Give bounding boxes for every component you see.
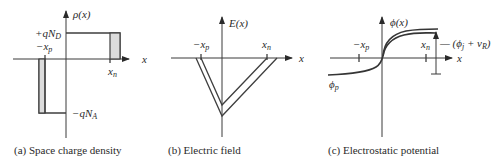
y-axis-label: ϕ(x) [390,16,408,29]
y-axis-label: ρ(x) [72,8,91,21]
neg-xp-label: −xp [193,38,209,52]
field-profile-outer [196,58,277,116]
neg-xp-label: −xp [36,40,52,54]
panel-electric-field: E(x) x −xp xn (b) Electric field [168,17,304,157]
phi-p-label: ϕp [329,78,339,92]
donor-charge-increment [110,33,120,59]
xn-label: xn [261,38,271,52]
panel-electrostatic-potential: ϕ(x) x −xp xn ϕp — (ϕj + vR) (c) Electro… [328,16,491,157]
x-axis-label: x [141,53,147,65]
x-axis-label: x [456,52,462,64]
xn-label: xn [420,38,430,52]
caption-a: (a) Space charge density [14,144,122,157]
pos-level-label: +qND [35,27,61,41]
xn-label: xn [107,65,117,79]
caption-c: (c) Electrostatic potential [328,144,439,157]
neg-xp-label: −xp [353,38,369,52]
y-axis-label: E(x) [228,17,248,30]
panel-space-charge-density: ρ(x) x +qND −xp xn −qNA (a) Space charge… [13,8,147,157]
neg-level-label: −qNA [72,107,97,121]
field-profile-inner [201,58,267,105]
potential-step-label: — (ϕj + vR) [439,37,491,51]
pn-junction-figure: ρ(x) x +qND −xp xn −qNA (a) Space charge… [0,0,497,167]
acceptor-charge-increment [39,59,45,113]
caption-b: (b) Electric field [168,144,241,157]
x-axis-label: x [298,52,304,64]
